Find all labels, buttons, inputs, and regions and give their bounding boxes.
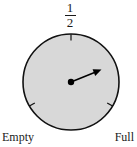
full-label: Full [115, 130, 134, 144]
fraction-numerator: 1 [56, 1, 84, 15]
fuel-gauge-figure: 1 2 Empty Full [0, 0, 137, 147]
needle-hub [68, 79, 74, 85]
fraction-denominator: 2 [56, 16, 84, 30]
half-fraction-label: 1 2 [56, 1, 84, 30]
empty-label: Empty [2, 130, 34, 144]
